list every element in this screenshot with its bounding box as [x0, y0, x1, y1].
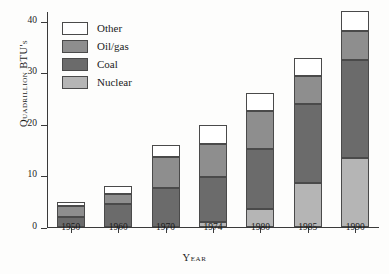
- bar-segment-other: [57, 202, 85, 206]
- bar-1980: [246, 93, 274, 227]
- legend-label: Oil/gas: [97, 40, 129, 52]
- y-tick: 40: [41, 22, 47, 23]
- legend-label: Other: [97, 22, 122, 34]
- chart-legend: OtherOil/gasCoalNuclear: [62, 19, 132, 91]
- legend-swatch-oilgas: [62, 40, 88, 53]
- bar-segment-other: [152, 145, 180, 157]
- bar-segment-oilgas: [341, 31, 369, 60]
- bar-segment-coal: [246, 149, 274, 209]
- x-axis-label-1950: 1950: [51, 222, 91, 232]
- bar-segment-oilgas: [57, 206, 85, 217]
- y-tick-label: 30: [28, 66, 38, 76]
- bar-1990: [341, 11, 369, 227]
- bar-segment-coal: [294, 104, 322, 183]
- legend-item-oilgas: Oil/gas: [62, 37, 132, 55]
- x-axis-label-1985: 1985: [288, 222, 328, 232]
- bar-segment-other: [294, 58, 322, 76]
- y-axis-title: Quadrillion BTU's: [18, 9, 29, 159]
- x-axis-title: Year: [0, 252, 389, 263]
- bar-segment-oilgas: [104, 194, 132, 204]
- bar-segment-other: [104, 186, 132, 194]
- legend-item-other: Other: [62, 19, 132, 37]
- y-axis-line: [47, 12, 48, 228]
- bar-segment-coal: [341, 60, 369, 158]
- chart-container: Quadrillion BTU's 010203040 195019601970…: [0, 0, 389, 274]
- y-tick-label: 20: [28, 118, 38, 128]
- bar-segment-oilgas: [152, 157, 180, 188]
- x-axis-label-1960: 1960: [98, 222, 138, 232]
- legend-label: Coal: [97, 58, 118, 70]
- legend-item-coal: Coal: [62, 55, 132, 73]
- bar-segment-other: [199, 125, 227, 144]
- y-tick: 20: [41, 125, 47, 126]
- bar-1970: [152, 145, 180, 227]
- legend-swatch-other: [62, 22, 88, 35]
- bar-segment-oilgas: [294, 76, 322, 104]
- legend-swatch-coal: [62, 58, 88, 71]
- bar-segment-coal: [199, 177, 227, 222]
- legend-label: Nuclear: [97, 76, 132, 88]
- y-tick: 10: [41, 176, 47, 177]
- bar-1960: [104, 186, 132, 227]
- bar-segment-oilgas: [199, 144, 227, 177]
- y-tick: 0: [41, 228, 47, 229]
- bar-segment-oilgas: [246, 111, 274, 149]
- legend-swatch-nuclear: [62, 76, 88, 89]
- x-axis-label-1990: 1990: [335, 222, 375, 232]
- bar-1974: [199, 125, 227, 227]
- y-tick-label: 10: [28, 169, 38, 179]
- bar-segment-nuclear: [294, 183, 322, 227]
- x-axis-label-1970: 1970: [146, 222, 186, 232]
- bar-segment-other: [341, 11, 369, 31]
- y-tick-label: 40: [28, 15, 38, 25]
- x-axis-label-1980: 1980: [240, 222, 280, 232]
- y-tick-label: 0: [32, 221, 37, 231]
- bar-segment-other: [246, 93, 274, 111]
- x-axis-label-1974: 1974: [193, 222, 233, 232]
- y-tick: 30: [41, 73, 47, 74]
- legend-item-nuclear: Nuclear: [62, 73, 132, 91]
- bar-segment-nuclear: [341, 158, 369, 227]
- bar-1985: [294, 58, 322, 227]
